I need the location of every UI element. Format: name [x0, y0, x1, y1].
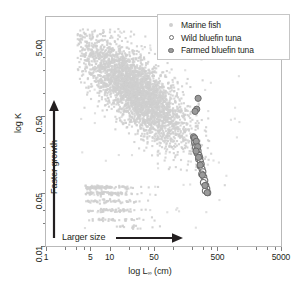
x-tick-label-50: 50 — [134, 252, 174, 262]
x-tick-minor — [129, 247, 130, 250]
legend-item-marine-fish: Marine fish — [165, 19, 289, 32]
x-tick-1 — [46, 247, 47, 251]
x-tick-minor — [192, 247, 193, 250]
legend-item-wild-bluefin-tuna: Wild bluefin tuna — [165, 32, 289, 45]
x-tick-label-500: 500 — [197, 252, 237, 262]
marine-fish-marker-icon — [165, 23, 177, 27]
annotation-faster-growth-label: Faster growth — [49, 122, 59, 212]
y-tick-minor — [43, 93, 46, 94]
x-tick-minor — [203, 247, 204, 250]
x-tick-minor — [267, 247, 268, 250]
legend-label-farmed-bluefin-tuna: Farmed bluefin tuna — [181, 44, 254, 57]
y-axis-title: log K — [13, 93, 23, 153]
x-tick-5 — [90, 247, 91, 251]
x-axis-title: log L∞ (cm) — [0, 266, 300, 276]
farmed-bluefin-tuna-marker-icon — [165, 48, 177, 54]
x-tick-label-10: 10 — [90, 252, 130, 262]
y-tick-label-0.01: 0.01 — [34, 246, 44, 272]
annotation-faster-growth: Faster growth — [47, 100, 61, 240]
annotation-larger-size: Larger size — [62, 231, 184, 245]
wild-bluefin-tuna-marker-icon — [165, 35, 177, 40]
y-tick-minor — [43, 57, 46, 58]
y-tick-label-0.50: 0.50 — [34, 116, 44, 142]
x-tick-minor — [65, 247, 66, 250]
x-tick-50 — [154, 247, 155, 251]
x-tick-minor — [173, 247, 174, 250]
annotation-larger-size-label: Larger size — [62, 232, 105, 242]
y-tick-minor — [43, 170, 46, 171]
x-tick-minor — [148, 247, 149, 250]
x-tick-10 — [110, 247, 111, 251]
y-tick-minor — [43, 147, 46, 148]
x-tick-minor — [84, 247, 85, 250]
x-tick-minor — [275, 247, 276, 250]
y-tick-minor — [43, 210, 46, 211]
y-tick-label-5.00: 5.00 — [34, 40, 44, 66]
x-tick-minor — [211, 247, 212, 250]
legend-item-farmed-bluefin-tuna: Farmed bluefin tuna — [165, 44, 289, 57]
y-tick-label-0.05: 0.05 — [34, 193, 44, 219]
x-axis-title-unit: (cm) — [152, 266, 172, 276]
x-tick-5000 — [281, 247, 282, 251]
x-tick-label-1: 1 — [26, 252, 66, 262]
legend: Marine fish Wild bluefin tuna Farmed blu… — [157, 14, 290, 60]
scatter-plot-figure: Marine fish Wild bluefin tuna Farmed blu… — [0, 0, 300, 292]
x-tick-minor — [237, 247, 238, 250]
y-tick-minor — [43, 223, 46, 224]
x-axis-title-main: log L — [128, 266, 147, 276]
x-tick-minor — [256, 247, 257, 250]
legend-label-marine-fish: Marine fish — [181, 19, 221, 32]
x-tick-minor — [140, 247, 141, 250]
legend-label-wild-bluefin-tuna: Wild bluefin tuna — [181, 32, 241, 45]
y-tick-minor — [43, 133, 46, 134]
x-tick-500 — [217, 247, 218, 251]
x-tick-minor — [76, 247, 77, 250]
x-tick-label-5000: 5000 — [261, 252, 300, 262]
y-tick-minor — [43, 70, 46, 71]
